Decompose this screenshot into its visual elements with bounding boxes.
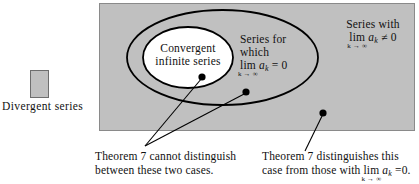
limit-expression-caption: limk → ∞ ak =0 [364, 163, 408, 181]
limit-value-zero: 0 [282, 59, 288, 71]
limit-operator-zero: lim k → ∞ [240, 59, 256, 71]
label-convergent-infinite-series: Convergent infinite series [144, 42, 232, 68]
limit-expression-zero: lim k → ∞ ak = 0 [240, 59, 288, 75]
limit-relation-zero: = [272, 59, 279, 71]
label-limnonzero-line1: Series with [346, 18, 400, 30]
caption-distinguishes: Theorem 7 distinguishes this case from t… [262, 149, 419, 181]
limit-expression-nonzero: lim k → ∞ ak ≠ 0 [349, 31, 396, 47]
limit-term-subscript-caption: k [388, 169, 392, 178]
limit-term-subscript-zero: k [265, 64, 269, 73]
caption-left-line1: Theorem 7 cannot distinguish [95, 149, 247, 163]
caption-right-line1: Theorem 7 distinguishes this [262, 149, 419, 163]
label-series-limit-nonzero: Series with lim k → ∞ ak ≠ 0 [330, 18, 416, 47]
limit-relation-nonzero: ≠ [381, 31, 388, 43]
label-limzero-line1: Series for [240, 33, 286, 45]
label-limzero-line2: which [240, 46, 269, 58]
dot-convergent-case [198, 73, 205, 80]
caption-right-line2: case from those with limk → ∞ ak =0. [262, 163, 419, 181]
label-series-limit-zero: Series for which lim k → ∞ ak = 0 [240, 33, 314, 75]
divergent-series-swatch-icon [30, 70, 49, 98]
leader-line-lim-nonzero [305, 114, 323, 151]
label-convergent-line1: Convergent [160, 42, 215, 54]
caption-left-line2: between these two cases. [95, 163, 247, 177]
caption-cannot-distinguish: Theorem 7 cannot distinguish between the… [95, 149, 247, 177]
caption-right-line2-post: . [408, 164, 411, 176]
limit-term-subscript-nonzero: k [374, 36, 378, 45]
legend-label-divergent-series: Divergent series [2, 100, 98, 112]
dot-lim-zero-case [242, 88, 249, 95]
limit-operator-nonzero: lim k → ∞ [349, 31, 365, 43]
dot-lim-nonzero-case [319, 109, 326, 116]
label-convergent-line2: infinite series [155, 55, 220, 67]
limit-operator-caption: limk → ∞ [364, 164, 380, 176]
caption-right-line2-pre: case from those with [262, 164, 364, 176]
limit-relation-caption: = [395, 164, 402, 176]
limit-value-nonzero: 0 [391, 31, 397, 43]
figure-canvas: Divergent series Convergent infinite ser… [0, 0, 419, 184]
